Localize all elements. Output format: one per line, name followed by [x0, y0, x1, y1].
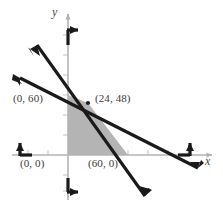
point-label-24-48: (24, 48) — [95, 92, 131, 104]
graph-figure: (0, 60) (24, 48) (0, 0) (60, 0) y x — [0, 0, 223, 208]
x-axis-label: x — [205, 154, 210, 169]
point-label-60-0: (60, 0) — [88, 157, 118, 169]
vertex-markers — [86, 101, 90, 105]
axis-lines — [12, 14, 212, 200]
steep-constraint-line — [28, 45, 152, 196]
coordinate-plane-svg — [0, 0, 223, 208]
point-label-0-60: (0, 60) — [13, 92, 43, 104]
y-axis-label: y — [52, 5, 57, 20]
feasible-region — [68, 95, 128, 155]
point-label-0-0: (0, 0) — [20, 157, 44, 169]
